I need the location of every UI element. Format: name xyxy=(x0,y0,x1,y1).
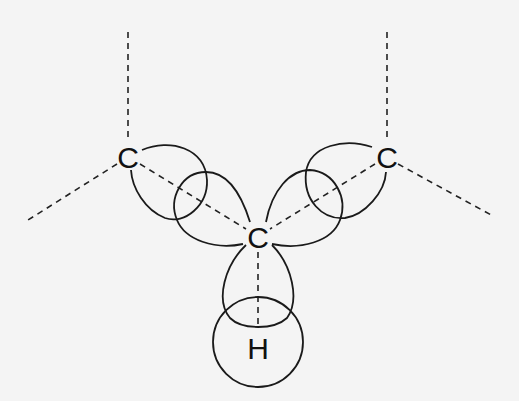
atom-label-c-right: C xyxy=(376,141,398,174)
orbital-overlap-diagram: C C C H xyxy=(0,0,519,401)
atom-label-h: H xyxy=(247,332,269,365)
atom-label-c-center: C xyxy=(247,221,269,254)
atom-label-c-left: C xyxy=(117,141,139,174)
